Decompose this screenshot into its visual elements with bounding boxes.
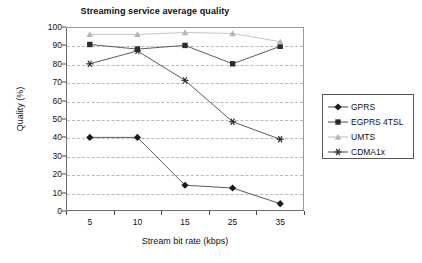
legend-item-cdma1x[interactable]: CDMA1x (327, 145, 413, 160)
x-tick-label: 25 (218, 217, 248, 227)
y-tick-label: 90 (36, 40, 62, 50)
legend-item-gprs[interactable]: GPRS (327, 99, 413, 114)
x-tick-label: 10 (122, 217, 152, 227)
y-tick-label: 30 (36, 151, 62, 161)
data-point-square (230, 61, 235, 66)
data-point-asterisk (86, 61, 93, 67)
y-axis-title: Quality (%) (15, 59, 25, 159)
data-point-asterisk (334, 149, 341, 155)
chart-container: Streaming service average quality Qualit… (0, 0, 422, 263)
chart-title: Streaming service average quality (0, 6, 310, 16)
data-point-diamond (86, 134, 93, 141)
triangle-icon (327, 130, 349, 144)
chart-legend: GPRSEGPRS 4TSLUMTSCDMA1x (322, 94, 414, 159)
series-gprs (86, 134, 284, 207)
y-tick-label: 80 (36, 59, 62, 69)
y-tick-label: 100 (36, 22, 62, 32)
data-point-square (335, 119, 340, 124)
square-icon (327, 115, 349, 129)
x-tick-mark (114, 211, 115, 215)
y-tick-label: 70 (36, 77, 62, 87)
data-point-diamond (277, 200, 284, 207)
data-point-asterisk (277, 136, 284, 142)
series-line (90, 51, 280, 139)
data-point-diamond (229, 184, 236, 191)
x-tick-mark (209, 211, 210, 215)
x-tick-mark (161, 211, 162, 215)
y-tick-label: 20 (36, 169, 62, 179)
x-tick-label: 5 (75, 217, 105, 227)
asterisk-icon (327, 145, 349, 159)
legend-label: UMTS (351, 132, 375, 142)
y-axis-tick-labels: 0102030405060708090100 (30, 27, 62, 211)
data-point-square (182, 43, 187, 48)
series-line (90, 137, 280, 203)
data-point-diamond (334, 103, 341, 110)
x-axis-title: Stream bit rate (kbps) (66, 236, 304, 246)
x-tick-mark (304, 211, 305, 215)
legend-item-umts[interactable]: UMTS (327, 130, 413, 145)
data-point-square (87, 42, 92, 47)
series-umts (87, 29, 284, 44)
legend-item-egprs-4tsl[interactable]: EGPRS 4TSL (327, 114, 413, 129)
y-tick-label: 10 (36, 188, 62, 198)
series-plot (66, 27, 304, 211)
y-tick-label: 0 (36, 206, 62, 216)
series-cdma1x (86, 48, 284, 143)
legend-label: CDMA1x (351, 147, 385, 157)
x-tick-mark (66, 211, 67, 215)
legend-label: GPRS (351, 102, 375, 112)
x-tick-label: 15 (170, 217, 200, 227)
legend-label: EGPRS 4TSL (351, 117, 403, 127)
y-tick-label: 50 (36, 114, 62, 124)
x-axis-tick-labels: 510152535 (66, 217, 304, 231)
y-tick-label: 40 (36, 132, 62, 142)
x-tick-label: 35 (265, 217, 295, 227)
diamond-icon (327, 100, 349, 114)
y-tick-label: 60 (36, 96, 62, 106)
series-egprs-4tsl (87, 42, 283, 67)
x-tick-mark (256, 211, 257, 215)
